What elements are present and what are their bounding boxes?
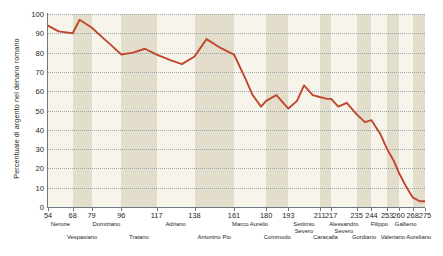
emperor-label: Gallieno	[395, 221, 417, 228]
y-tick-label: 60	[2, 87, 44, 96]
x-tick-label: 79	[88, 211, 96, 220]
x-tick-label: 253	[381, 211, 393, 220]
emperor-label: Filippo	[371, 221, 388, 228]
y-tick-label: 40	[2, 126, 44, 135]
x-tick-label: 193	[282, 211, 294, 220]
emperor-reign-labels: NeroneVespasianoDomizianoTraianoAdrianoA…	[0, 221, 443, 256]
y-tick-label: 80	[2, 49, 44, 58]
x-tick-label: 138	[188, 211, 200, 220]
x-tick-label: 260	[392, 211, 404, 220]
y-axis-line	[47, 13, 48, 208]
x-axis-tick-labels: 5468799611713816118019321121723524425326…	[0, 208, 443, 220]
emperor-label-line2: Severo	[293, 228, 314, 235]
silver-content-line-series	[48, 14, 425, 207]
emperor-label: SettimioSevero	[293, 221, 314, 234]
x-tick-label: 117	[151, 211, 163, 220]
emperor-label: Nerone	[51, 221, 70, 228]
emperor-label: AlessandroSevero	[329, 221, 358, 234]
y-tick-label: 10	[2, 184, 44, 193]
emperor-label: Adriano	[165, 221, 185, 228]
chart-root: Percentuale di argento nel denario roman…	[0, 0, 443, 256]
y-tick-label: 20	[2, 164, 44, 173]
y-tick-label: 70	[2, 68, 44, 77]
emperor-label: Aureliano	[406, 234, 431, 241]
emperor-label: Gordiano	[352, 234, 376, 241]
x-tick-label: 54	[44, 211, 52, 220]
x-tick-label: 180	[260, 211, 272, 220]
y-tick-label: 100	[2, 10, 44, 19]
x-tick-label: 268	[406, 211, 418, 220]
data-polyline	[48, 20, 425, 201]
y-tick-label: 90	[2, 29, 44, 38]
emperor-label: Caracalla	[313, 234, 338, 241]
y-tick-label: 30	[2, 145, 44, 154]
x-tick-label: 68	[69, 211, 77, 220]
emperor-label: Traiano	[129, 234, 149, 241]
emperor-label: Vespasiano	[67, 234, 97, 241]
x-tick-label: 244	[365, 211, 377, 220]
y-axis-tick-labels: 1009080706050403020100	[0, 14, 44, 207]
emperor-label: Marco Aurelio	[232, 221, 268, 228]
x-tick-label: 235	[351, 211, 363, 220]
x-tick-label: 275	[419, 211, 431, 220]
x-tick-label: 161	[228, 211, 240, 220]
y-tick-label: 50	[2, 107, 44, 116]
emperor-label: Valeriano	[381, 234, 405, 241]
emperor-label: Commodo	[264, 234, 291, 241]
emperor-label: Domiziano	[93, 221, 121, 228]
plot-area	[48, 14, 425, 207]
x-tick-label: 211	[314, 211, 326, 220]
x-tick-label: 217	[325, 211, 337, 220]
x-tick-label: 96	[117, 211, 125, 220]
emperor-label: Antonino Pio	[198, 234, 231, 241]
